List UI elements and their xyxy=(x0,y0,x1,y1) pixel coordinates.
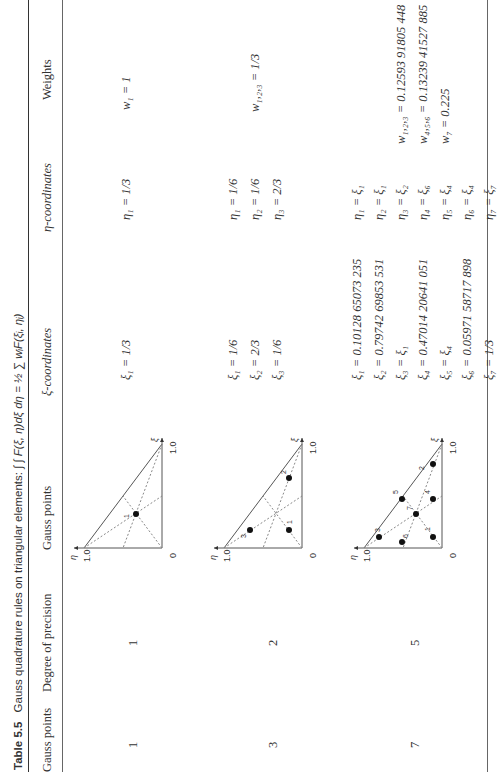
one-label: 1.0 xyxy=(168,441,178,454)
weight-value: w₇ = 0.225 xyxy=(434,5,456,144)
xi-value: ξ₃ = 1/6 xyxy=(266,340,288,380)
header-eta-label: η-coordinates xyxy=(40,163,54,232)
row2-eta-list: η₁ = 1/6 η₂ = 1/6 η₃ = 2/3 xyxy=(222,179,288,220)
row2-triangle-diagram: 1 2 3 η ξ 1.0 1.0 0 xyxy=(206,432,324,562)
xi-value: ξ₃ = ξ₁ xyxy=(390,259,412,380)
eta-axis-label: η xyxy=(68,555,78,560)
row2-gauss-points: 3 xyxy=(266,742,281,748)
eta-value: η₅ = ξ₄ xyxy=(434,185,456,220)
one-label: 1.0 xyxy=(362,549,372,562)
eta-axis-label: η xyxy=(348,555,358,560)
xi-axis-label: ξ xyxy=(150,437,160,442)
xi-axis-label: ξ xyxy=(430,437,440,442)
header-eta: η-coordinates xyxy=(40,163,55,232)
eta-axis-label: η xyxy=(208,555,218,560)
one-label: 1.0 xyxy=(308,441,318,454)
row3-xi-list: ξ₁ = 0.10128 65073 235 ξ₂ = 0.79742 6985… xyxy=(346,259,500,380)
eta-value: η₃ = ξ₂ xyxy=(390,185,412,220)
caption-formula: ∫ ∫ F(ξ, η)dξ dη = ½ ∑ wᵢF(ξᵢ, ηᵢ) xyxy=(12,314,24,469)
weight-value: w₁,₂,₃ = 1/3 xyxy=(244,54,266,112)
point-label: 3 xyxy=(240,534,247,538)
xi-value: ξ₁ = 0.10128 65073 235 xyxy=(346,259,368,380)
row2-weights-list: w₁,₂,₃ = 1/3 xyxy=(244,54,266,112)
weight-value: w₄,₅,₆ = 0.13239 41527 885 xyxy=(412,5,434,144)
zero-label: 0 xyxy=(168,553,178,558)
row2-xi-list: ξ₁ = 1/6 ξ₂ = 2/3 ξ₃ = 1/6 xyxy=(222,340,288,380)
row2-degree: 2 xyxy=(266,640,281,646)
point-label: 1 xyxy=(123,514,130,518)
eta-value: η₁ = 1/6 xyxy=(222,179,244,220)
header-degree: Degree of precision xyxy=(40,593,55,692)
point-label: 5 xyxy=(392,490,399,494)
zero-label: 0 xyxy=(308,553,318,558)
point-label: 1 xyxy=(286,520,293,524)
one-label: 1.0 xyxy=(448,441,458,454)
header-rule xyxy=(62,0,63,772)
header-weights: Weights xyxy=(40,59,55,100)
point-label: 2 xyxy=(418,466,425,470)
xi-value: ξ₂ = 0.79742 69853 531 xyxy=(368,259,390,380)
xi-value: ξ₆ = 0.05971 58717 898 xyxy=(456,259,478,380)
header-gauss-points: Gauss points xyxy=(40,708,55,772)
eta-value: η₁ = 1/3 xyxy=(115,179,137,220)
xi-value: ξ₂ = 2/3 xyxy=(244,340,266,380)
xi-value: ξ₁ = 1/6 xyxy=(222,340,244,380)
row3-triangle-diagram: 1 2 3 4 5 6 7 η ξ 1.0 1.0 0 xyxy=(346,432,464,562)
point-label: 6 xyxy=(402,534,409,538)
xi-value: ξ₅ = ξ₄ xyxy=(434,259,456,380)
point-label: 3 xyxy=(374,528,381,532)
xi-value: ξ₄ = 0.47014 20641 051 xyxy=(412,259,434,380)
weight-value: w₁,₂,₃ = 0.12593 91805 448 xyxy=(390,5,412,144)
xi-value: ξ₇ = 1/3 xyxy=(478,259,500,380)
eta-value: η₄ = ξ₆ xyxy=(412,185,434,220)
row1-eta-list: η₁ = 1/3 xyxy=(115,179,137,220)
xi-axis-label: ξ xyxy=(290,437,300,442)
eta-value: η₃ = 2/3 xyxy=(266,179,288,220)
row1-gauss-points: 1 xyxy=(126,742,141,748)
point-label: 1 xyxy=(424,527,431,531)
bottom-rule xyxy=(487,0,488,772)
row3-gauss-points: 7 xyxy=(408,742,423,748)
header-xi-label: ξ-coordinates xyxy=(40,328,54,396)
row1-triangle-diagram: 1 η ξ 1.0 1.0 0 xyxy=(66,432,184,562)
row3-eta-list: η₁ = ξ₁ η₂ = ξ₁ η₃ = ξ₂ η₄ = ξ₆ η₅ = ξ₄ … xyxy=(346,185,500,220)
point-label: 7 xyxy=(406,506,413,510)
eta-value: η₂ = 1/6 xyxy=(244,179,266,220)
one-label: 1.0 xyxy=(82,549,92,562)
eta-value: η₇ = ξ₇ xyxy=(478,185,500,220)
xi-value: ξ₁ = 1/3 xyxy=(115,340,137,380)
caption-label: Table 5.5 xyxy=(12,722,24,770)
header-diagram: Gauss points xyxy=(40,486,55,550)
table-caption: Table 5.5 Gauss quadrature rules on tria… xyxy=(12,314,24,770)
eta-value: η₆ = ξ₄ xyxy=(456,185,478,220)
weight-value: w₁ = 1 xyxy=(115,76,137,110)
point-label: 4 xyxy=(424,490,431,494)
row1-weights-list: w₁ = 1 xyxy=(115,76,137,110)
one-label: 1.0 xyxy=(222,549,232,562)
row3-weights-list: w₁,₂,₃ = 0.12593 91805 448 w₄,₅,₆ = 0.13… xyxy=(390,5,456,144)
row3-degree: 5 xyxy=(408,640,423,646)
top-rule xyxy=(28,0,29,772)
point-label: 2 xyxy=(280,470,287,474)
caption-text: Gauss quadrature rules on triangular ele… xyxy=(12,472,24,712)
header-xi: ξ-coordinates xyxy=(40,328,55,396)
eta-value: η₁ = ξ₁ xyxy=(346,185,368,220)
zero-label: 0 xyxy=(448,553,458,558)
eta-value: η₂ = ξ₁ xyxy=(368,185,390,220)
row1-degree: 1 xyxy=(126,640,141,646)
row1-xi-list: ξ₁ = 1/3 xyxy=(115,340,137,380)
